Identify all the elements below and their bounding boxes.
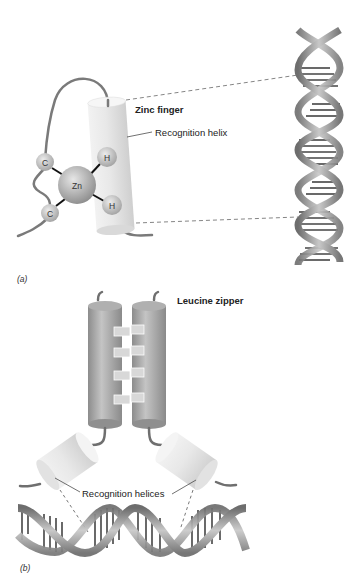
panel-b-leucine-zipper: Recognition helices Leucine zipper (b) xyxy=(18,292,246,573)
zinc-atom: Zn xyxy=(58,166,96,204)
helix-leader-line xyxy=(127,132,152,137)
histidine-bottom-atom: H xyxy=(102,195,122,215)
strand-tail-right xyxy=(216,482,236,486)
peptide-strand-between-cys xyxy=(34,168,50,210)
histidine-top-atom: H xyxy=(97,147,117,167)
connector-dashed-bottom xyxy=(136,217,298,223)
cysteine-bottom-atom: C xyxy=(41,204,59,222)
svg-text:C: C xyxy=(42,158,48,168)
dna-double-helix-horizontal xyxy=(18,508,246,553)
recognition-helices-label: Recognition helices xyxy=(82,488,165,499)
zinc-finger-title: Zinc finger xyxy=(135,104,184,115)
panel-a-zinc-finger: C C Zn H H Zinc finger Recognition helix xyxy=(17,30,340,284)
peptide-strand-tail-left xyxy=(18,218,48,236)
strand-mid-left xyxy=(92,428,105,445)
recognition-helix-left xyxy=(33,429,103,493)
cysteine-top-atom: C xyxy=(36,153,54,171)
recognition-helix-label: Recognition helix xyxy=(155,127,228,138)
panel-a-label: (a) xyxy=(17,274,28,284)
figure: C C Zn H H Zinc finger Recognition helix xyxy=(0,0,359,582)
svg-text:Zn: Zn xyxy=(72,181,82,191)
zipper-helix-right xyxy=(132,301,166,429)
strand-mid-right xyxy=(149,428,162,445)
strand-tail-left xyxy=(20,484,40,486)
strand-top-right xyxy=(154,292,158,300)
leucine-zipper-title: Leucine zipper xyxy=(177,295,244,306)
svg-text:C: C xyxy=(47,209,53,219)
svg-text:H: H xyxy=(109,201,115,211)
svg-text:H: H xyxy=(104,153,110,163)
dna-double-helix-vertical xyxy=(298,30,340,265)
strand-top-left xyxy=(98,292,102,300)
zipper-helix-left xyxy=(88,301,122,429)
recognition-helix-right xyxy=(152,429,222,493)
connector-dashed-top xyxy=(126,75,298,100)
panel-b-label: (b) xyxy=(20,563,31,573)
